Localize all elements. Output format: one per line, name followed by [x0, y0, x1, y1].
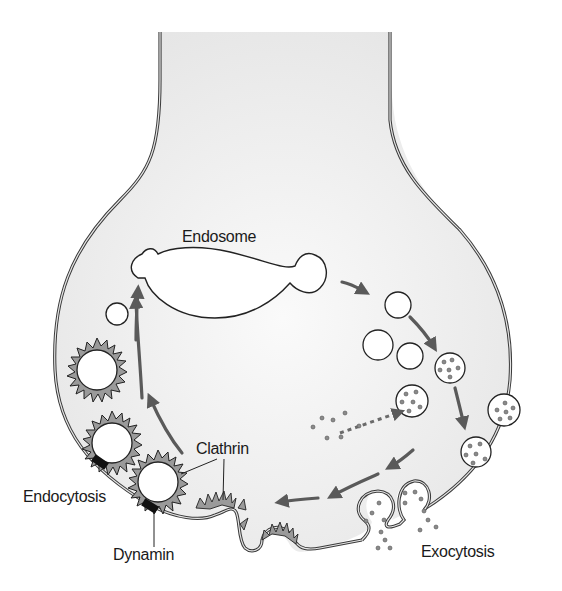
exocytosis-label: Exocytosis: [421, 543, 494, 561]
clathrin-label: Clathrin: [196, 440, 249, 458]
presynaptic-terminal: [55, 32, 511, 552]
dynamin-label: Dynamin: [113, 546, 174, 564]
endosome-label: Endosome: [182, 228, 256, 246]
released-transmitter: [364, 490, 438, 550]
endocytosis-label: Endocytosis: [23, 488, 106, 506]
